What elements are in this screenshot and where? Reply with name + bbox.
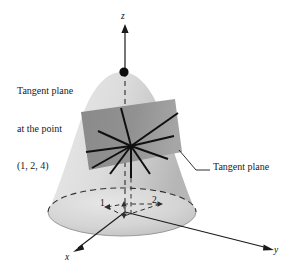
y-axis-arrowhead bbox=[263, 245, 274, 251]
label-line-1: Tangent plane bbox=[17, 85, 73, 98]
label-line-2: at the point bbox=[17, 123, 73, 136]
tick-label-y-2: 2 bbox=[152, 195, 157, 205]
tangent-plane-figure: Tangent plane at the point (1, 2, 4) Tan… bbox=[0, 0, 294, 271]
apex-point-dot bbox=[119, 67, 128, 76]
label-tangent-plane: Tangent plane bbox=[213, 161, 269, 174]
axis-label-y: y bbox=[274, 245, 278, 255]
tangent-plane-leader-line bbox=[179, 150, 210, 170]
x-axis-arrowhead bbox=[73, 244, 84, 252]
label-line-3: (1, 2, 4) bbox=[17, 160, 73, 173]
z-axis-arrowhead bbox=[121, 24, 128, 33]
tick-label-x-1: 1 bbox=[100, 198, 105, 208]
axis-label-x: x bbox=[65, 252, 69, 262]
axis-label-z: z bbox=[121, 11, 125, 21]
label-tangent-plane-at-point: Tangent plane at the point (1, 2, 4) bbox=[17, 60, 73, 198]
